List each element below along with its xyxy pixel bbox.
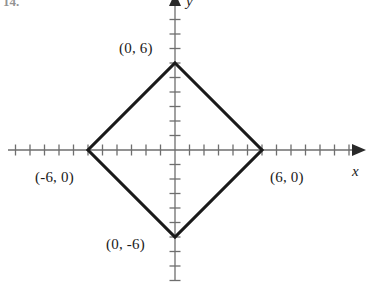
- x-axis-arrowhead-icon: [352, 144, 366, 156]
- y-axis-arrowhead-icon: [169, 0, 181, 6]
- vertex-label-left: (-6, 0): [35, 170, 74, 185]
- y-axis-label: y: [186, 0, 193, 9]
- axes-group: [8, 0, 366, 281]
- vertex-label-right: (6, 0): [270, 170, 304, 185]
- vertex-label-bottom: (0, -6): [106, 237, 145, 252]
- x-axis-label: x: [352, 164, 359, 179]
- coordinate-plane-figure: 14. (0, 6) (-6, 0) (6, 0) (0, -6) x y: [0, 0, 369, 285]
- vertex-label-top: (0, 6): [119, 41, 153, 56]
- plot-canvas: [0, 0, 369, 285]
